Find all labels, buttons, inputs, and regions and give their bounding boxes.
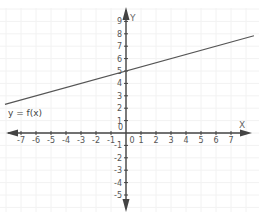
y-tick-label: -5 <box>114 191 122 200</box>
x-tick-label: -3 <box>77 136 85 145</box>
x-tick-label: -7 <box>17 136 25 145</box>
y-tick-label: -2 <box>114 154 122 163</box>
y-axis <box>123 7 130 212</box>
y-tick-label: -4 <box>114 179 122 188</box>
y-tick-label: 8 <box>117 30 122 39</box>
y-tick-label: 9 <box>117 17 122 26</box>
x-tick-label: 6 <box>213 136 218 145</box>
y-tick-label: 4 <box>117 79 122 88</box>
y-tick-label: 6 <box>117 55 122 64</box>
y-tick-label: -1 <box>114 141 122 150</box>
x-tick-label: 1 <box>138 136 143 145</box>
x-tick-label: -4 <box>62 136 70 145</box>
x-axis-label: X <box>239 120 245 130</box>
x-tick-label: 5 <box>198 136 203 145</box>
function-graph: -7-6-5-4-3-2-112345670 -5-4-3-2-10123456… <box>0 0 259 217</box>
x-tick-label: -5 <box>47 136 55 145</box>
y-tick-label: 5 <box>117 67 122 76</box>
x-tick-label: 3 <box>168 136 173 145</box>
y-tick-label: 2 <box>117 104 122 113</box>
x-tick-label: 2 <box>153 136 158 145</box>
y-axis-down-arrow-icon <box>123 199 130 212</box>
y-tick-label: -3 <box>114 166 122 175</box>
x-tick-label: 7 <box>228 136 233 145</box>
x-origin-label: 0 <box>129 136 134 145</box>
x-tick-label: -6 <box>32 136 40 145</box>
function-label: y = f(x) <box>8 108 42 118</box>
x-tick-label: -2 <box>92 136 100 145</box>
y-axis-label: Y <box>129 13 136 23</box>
y-tick-label: 3 <box>117 92 122 101</box>
y-tick-label: 7 <box>117 42 122 51</box>
y-tick-label: 1 <box>117 117 122 126</box>
x-tick-label: 4 <box>183 136 188 145</box>
